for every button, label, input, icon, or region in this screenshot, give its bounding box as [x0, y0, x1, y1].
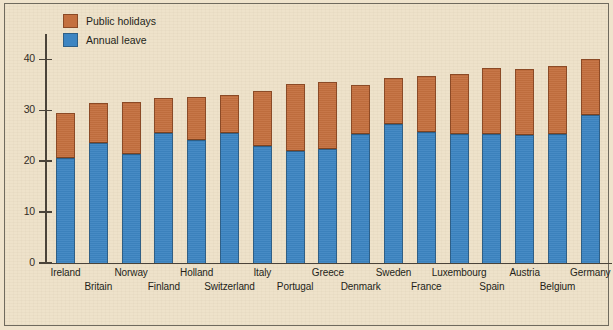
chart-page: Public holidays Annual leave 010203040 I…: [0, 0, 613, 330]
bar-segment-public-holidays: [351, 85, 370, 134]
bar-segment-public-holidays: [253, 91, 272, 146]
bar-spain: [482, 68, 501, 262]
bar-britain: [89, 103, 108, 262]
bar-holland: [187, 97, 206, 262]
x-axis-label-luxembourg: Luxembourg: [432, 267, 487, 278]
x-axis-label-sweden: Sweden: [376, 267, 412, 278]
legend-label-public-holidays: Public holidays: [86, 15, 156, 27]
bar-segment-annual-leave: [384, 124, 403, 263]
bar-segment-annual-leave: [318, 149, 337, 262]
x-axis-label-portugal: Portugal: [277, 281, 313, 292]
x-axis-label-switzerland: Switzerland: [204, 281, 255, 292]
x-axis-label-spain: Spain: [479, 281, 504, 292]
bar-series-container: [45, 34, 605, 263]
x-axis-label-britain: Britain: [84, 281, 112, 292]
bar-sweden: [384, 78, 403, 262]
figure-frame: Public holidays Annual leave 010203040 I…: [4, 3, 609, 326]
bar-belgium: [548, 66, 567, 262]
x-axis-label-austria: Austria: [509, 267, 539, 278]
bar-segment-public-holidays: [187, 97, 206, 140]
bar-segment-annual-leave: [286, 151, 305, 263]
bar-finland: [154, 98, 173, 263]
x-axis-label-norway: Norway: [114, 267, 147, 278]
bar-switzerland: [220, 95, 239, 263]
bar-segment-annual-leave: [548, 134, 567, 262]
bar-segment-annual-leave: [187, 140, 206, 262]
bar-segment-annual-leave: [56, 158, 75, 262]
x-axis-label-italy: Italy: [253, 267, 271, 278]
bar-segment-public-holidays: [384, 78, 403, 123]
bar-ireland: [56, 113, 75, 263]
bar-segment-annual-leave: [515, 135, 534, 263]
plot-area: 010203040: [45, 34, 605, 264]
x-axis-label-greece: Greece: [312, 267, 344, 278]
x-axis-line: [45, 263, 612, 265]
x-axis-label-france: France: [411, 281, 442, 292]
bar-segment-annual-leave: [89, 143, 108, 263]
y-axis-tick-label: 30: [13, 103, 35, 115]
legend-swatch-public-holidays: [63, 14, 78, 28]
bar-segment-annual-leave: [450, 134, 469, 262]
bar-segment-annual-leave: [351, 134, 370, 262]
bar-segment-public-holidays: [122, 102, 141, 154]
bar-segment-public-holidays: [515, 69, 534, 135]
bar-segment-annual-leave: [154, 133, 173, 262]
x-axis-label-finland: Finland: [148, 281, 180, 292]
bar-france: [417, 76, 436, 263]
bar-greece: [318, 82, 337, 263]
bar-segment-public-holidays: [417, 76, 436, 132]
bar-segment-public-holidays: [286, 84, 305, 150]
bar-segment-public-holidays: [450, 74, 469, 134]
bar-austria: [515, 69, 534, 263]
bar-segment-annual-leave: [122, 154, 141, 262]
bar-portugal: [286, 84, 305, 262]
bar-italy: [253, 91, 272, 262]
x-axis-label-ireland: Ireland: [51, 267, 81, 278]
x-axis-label-denmark: Denmark: [341, 281, 381, 292]
y-axis-tick-label: 40: [13, 52, 35, 64]
x-axis-labels: IrelandBritainNorwayFinlandHollandSwitze…: [45, 266, 611, 306]
bar-luxembourg: [450, 74, 469, 262]
y-axis-tick-label: 10: [13, 205, 35, 217]
x-axis-label-germany: Germany: [570, 267, 610, 278]
bar-segment-annual-leave: [220, 133, 239, 262]
x-axis-label-holland: Holland: [180, 267, 213, 278]
bar-segment-public-holidays: [482, 68, 501, 134]
bar-segment-public-holidays: [581, 59, 600, 115]
x-axis-label-belgium: Belgium: [540, 281, 575, 292]
bar-segment-annual-leave: [253, 146, 272, 262]
bar-segment-public-holidays: [89, 103, 108, 143]
bar-norway: [122, 102, 141, 263]
bar-segment-public-holidays: [548, 66, 567, 134]
legend-item-public-holidays: Public holidays: [63, 14, 156, 28]
y-axis-tick-label: 20: [13, 154, 35, 166]
bar-denmark: [351, 85, 370, 263]
bar-segment-annual-leave: [581, 115, 600, 263]
bar-germany: [581, 59, 600, 263]
bar-segment-annual-leave: [417, 132, 436, 262]
bar-segment-public-holidays: [220, 95, 239, 134]
bar-segment-public-holidays: [154, 98, 173, 134]
bar-segment-public-holidays: [56, 113, 75, 158]
bar-segment-public-holidays: [318, 82, 337, 149]
y-axis-tick-label: 0: [13, 256, 35, 268]
bar-segment-annual-leave: [482, 134, 501, 262]
